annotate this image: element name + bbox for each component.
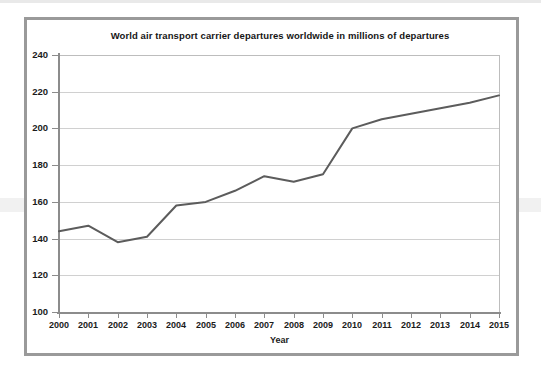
- series-line-layer: [0, 0, 541, 373]
- line-chart: World air transport carrier departures w…: [0, 0, 541, 373]
- x-axis-title: Year: [59, 335, 500, 345]
- screenshot-root: World air transport carrier departures w…: [0, 0, 541, 373]
- series-polyline-world-air-transport-departures: [59, 95, 499, 242]
